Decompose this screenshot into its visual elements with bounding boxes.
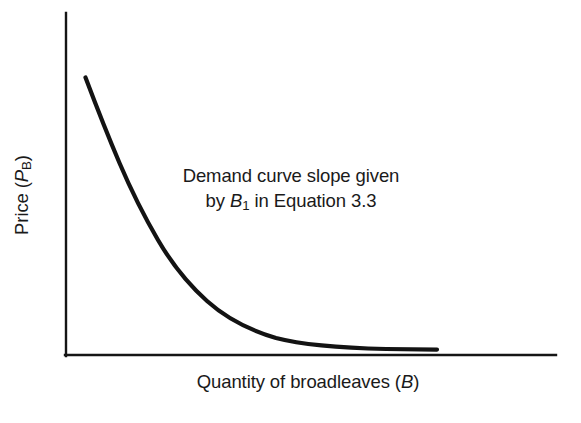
y-axis-subscript-b: B: [19, 161, 34, 170]
y-axis-label-suffix: ): [11, 155, 32, 161]
y-axis-label-prefix: Price (: [11, 182, 32, 235]
x-axis-label: Quantity of broadleaves (B): [148, 371, 468, 393]
annotation-line-2-suffix: in Equation 3.3: [249, 190, 376, 211]
y-axis-variable-p: P: [11, 170, 32, 182]
curve-annotation: Demand curve slope given by B1 in Equati…: [156, 163, 426, 218]
y-axis-label-container: Price (PB): [11, 125, 41, 265]
x-axis-label-suffix: ): [413, 371, 419, 392]
annotation-line-2: by B1 in Equation 3.3: [156, 188, 426, 218]
annotation-line-1: Demand curve slope given: [156, 163, 426, 188]
x-axis-variable-b: B: [401, 371, 413, 392]
annotation-line-2-prefix: by: [206, 190, 230, 211]
demand-curve-figure: Demand curve slope given by B1 in Equati…: [0, 0, 581, 423]
x-axis-label-prefix: Quantity of broadleaves (: [197, 371, 401, 392]
annotation-variable-b: B: [230, 190, 242, 211]
y-axis-label: Price (PB): [11, 155, 32, 235]
